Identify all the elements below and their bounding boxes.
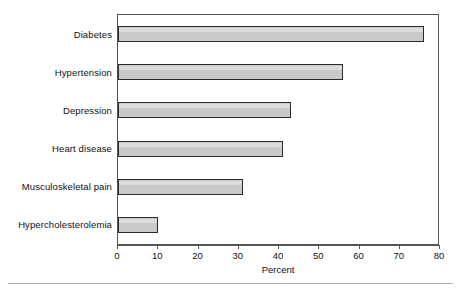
category-label-depression: Depression — [0, 91, 112, 129]
category-label-diabetes: Diabetes — [0, 15, 112, 53]
x-tick-70 — [399, 245, 400, 249]
x-tick-80 — [439, 245, 440, 249]
x-tick-label-0: 0 — [102, 250, 132, 261]
x-tick-label-50: 50 — [303, 250, 333, 261]
bar-musculoskeletal-pain — [118, 179, 243, 195]
bar-depression — [118, 102, 291, 118]
x-tick-label-10: 10 — [142, 250, 172, 261]
category-label-hypercholesterolemia: Hypercholesterolemia — [0, 206, 112, 244]
x-tick-10 — [157, 245, 158, 249]
category-label-heart-disease: Heart disease — [0, 130, 112, 168]
x-tick-0 — [117, 245, 118, 249]
bar-diabetes — [118, 26, 424, 42]
x-tick-40 — [278, 245, 279, 249]
bar-row — [118, 91, 439, 129]
bar-hypercholesterolemia — [118, 217, 158, 233]
x-tick-label-20: 20 — [183, 250, 213, 261]
bar-row — [118, 53, 439, 91]
x-tick-label-30: 30 — [223, 250, 253, 261]
x-tick-label-80: 80 — [424, 250, 454, 261]
category-label-hypertension: Hypertension — [0, 53, 112, 91]
x-tick-30 — [238, 245, 239, 249]
bars-layer — [118, 15, 439, 244]
x-tick-20 — [198, 245, 199, 249]
bar-hypertension — [118, 64, 343, 80]
x-axis-title: Percent — [117, 264, 439, 275]
x-tick-60 — [359, 245, 360, 249]
bar-chart-figure: DiabetesHypertensionDepressionHeart dise… — [0, 0, 461, 289]
bar-heart-disease — [118, 141, 283, 157]
category-axis-labels: DiabetesHypertensionDepressionHeart dise… — [0, 15, 112, 244]
bar-row — [118, 130, 439, 168]
bar-row — [118, 206, 439, 244]
x-tick-50 — [318, 245, 319, 249]
footer-divider — [8, 283, 453, 284]
x-tick-label-40: 40 — [263, 250, 293, 261]
bar-row — [118, 15, 439, 53]
category-label-musculoskeletal-pain: Musculoskeletal pain — [0, 168, 112, 206]
bar-row — [118, 168, 439, 206]
x-tick-label-70: 70 — [384, 250, 414, 261]
x-tick-label-60: 60 — [344, 250, 374, 261]
